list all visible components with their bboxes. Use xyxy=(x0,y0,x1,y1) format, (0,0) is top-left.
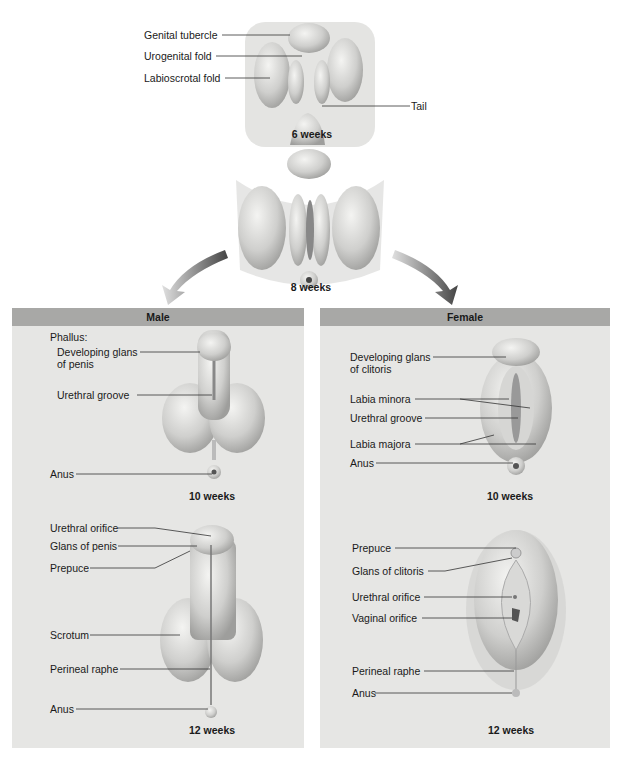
label-phallus: Phallus: xyxy=(50,331,87,343)
label-prepuce-female: Prepuce xyxy=(352,542,391,554)
label-of-penis: of penis xyxy=(57,358,94,370)
label-glans-of-penis: Glans of penis xyxy=(50,540,117,552)
label-developing-glans-penis: Developing glans xyxy=(57,346,138,358)
label-prepuce-male: Prepuce xyxy=(50,562,89,574)
label-vaginal-orifice: Vaginal orifice xyxy=(352,612,417,624)
label-anus-female-10: Anus xyxy=(350,457,374,469)
label-of-clitoris: of clitoris xyxy=(350,363,391,375)
caption-female-12-weeks: 12 weeks xyxy=(488,724,534,736)
arrow-to-male-icon xyxy=(162,250,228,305)
caption-male-12-weeks: 12 weeks xyxy=(189,724,235,736)
label-scrotum: Scrotum xyxy=(50,629,89,641)
caption-male-10-weeks: 10 weeks xyxy=(189,490,235,502)
label-perineal-raphe-female: Perineal raphe xyxy=(352,665,420,677)
label-glans-of-clitoris: Glans of clitoris xyxy=(352,565,424,577)
arrow-to-female-icon xyxy=(392,250,458,305)
label-genital-tubercle: Genital tubercle xyxy=(144,29,218,41)
stage-8-weeks-illustration xyxy=(236,149,384,289)
label-urogenital-fold: Urogenital fold xyxy=(144,50,212,62)
female-12-weeks-illustration xyxy=(466,530,566,697)
label-urethral-orifice-male: Urethral orifice xyxy=(50,522,118,534)
label-urethral-groove-male: Urethral groove xyxy=(57,389,129,401)
label-tail: Tail xyxy=(411,100,427,112)
label-labia-majora: Labia majora xyxy=(350,438,411,450)
label-labia-minora: Labia minora xyxy=(350,393,411,405)
label-urethral-orifice-female: Urethral orifice xyxy=(352,591,420,603)
label-perineal-raphe-male: Perineal raphe xyxy=(50,663,118,675)
label-labioscrotal-fold: Labioscrotal fold xyxy=(144,72,220,84)
label-anus-female-12: Anus xyxy=(352,687,376,699)
label-anus-male-10: Anus xyxy=(50,468,74,480)
caption-female-10-weeks: 10 weeks xyxy=(487,490,533,502)
label-developing-glans-clitoris: Developing glans xyxy=(350,351,431,363)
caption-6-weeks: 6 weeks xyxy=(292,128,332,140)
male-12-weeks-illustration xyxy=(160,525,263,718)
caption-8-weeks: 8 weeks xyxy=(291,281,331,293)
illustrations xyxy=(0,0,623,759)
label-anus-male-12: Anus xyxy=(50,703,74,715)
label-urethral-groove-female: Urethral groove xyxy=(350,412,422,424)
